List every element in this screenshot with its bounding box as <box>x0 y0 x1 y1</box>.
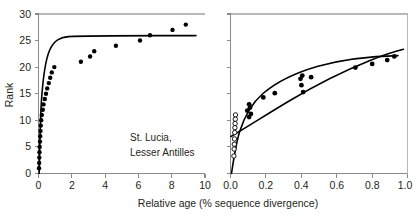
data-point-open <box>233 117 237 121</box>
data-point <box>41 108 45 112</box>
x-ticklabel-0: 0 <box>36 179 42 191</box>
x-ticklabel-4: 4 <box>102 179 108 191</box>
y-ticklabel-30: 30 <box>19 8 31 20</box>
data-point <box>300 73 305 78</box>
right-panel: 0.0 0.2 0.4 0.6 0.8 1.0 <box>223 14 412 191</box>
data-point <box>353 65 358 70</box>
right-panel-y-ticks <box>227 14 231 174</box>
data-point <box>37 150 41 154</box>
data-point <box>43 97 47 101</box>
y-ticklabel-25: 25 <box>19 34 31 46</box>
data-point-open <box>233 126 237 130</box>
right-panel-linear-curve <box>231 49 404 136</box>
data-point <box>41 102 45 106</box>
data-point <box>40 113 44 117</box>
x-ticklabel-0_2: 0.2 <box>259 179 274 191</box>
data-point <box>385 58 390 63</box>
annotation-line-2: Lesser Antilles <box>130 147 194 158</box>
two-panel-scatter-figure: 0 5 10 15 20 25 30 0 2 4 6 8 <box>0 0 418 216</box>
x-ticklabel-0_4: 0.4 <box>294 179 309 191</box>
data-point <box>309 75 314 80</box>
y-axis-title: Rank <box>3 82 15 107</box>
data-point <box>79 60 83 64</box>
data-point <box>38 145 42 149</box>
data-point <box>52 65 56 69</box>
left-panel: 0 5 10 15 20 25 30 0 2 4 6 8 <box>3 8 211 191</box>
data-point <box>392 54 397 59</box>
data-point <box>261 95 266 100</box>
data-point <box>248 105 253 110</box>
left-panel-y-ticks <box>35 14 39 174</box>
data-point <box>148 33 152 37</box>
data-point <box>39 118 43 122</box>
data-point <box>39 123 43 127</box>
data-point <box>301 90 306 95</box>
data-point <box>88 54 92 58</box>
y-ticklabel-15: 15 <box>19 87 31 99</box>
x-ticklabel-0_6: 0.6 <box>330 179 345 191</box>
x-ticklabel-0_0: 0.0 <box>223 179 238 191</box>
data-point <box>38 139 42 143</box>
data-point <box>272 91 277 96</box>
left-panel-y-ticklabels: 0 5 10 15 20 25 30 <box>19 8 31 179</box>
annotation-line-1: St. Lucia, <box>130 132 172 143</box>
data-point <box>299 83 304 88</box>
left-panel-annotation: St. Lucia, Lesser Antilles <box>130 132 194 158</box>
data-point-open <box>233 130 237 134</box>
data-point <box>114 44 118 48</box>
x-ticklabel-1_0: 1.0 <box>398 179 413 191</box>
y-ticklabel-0: 0 <box>25 167 31 179</box>
data-point-open <box>232 154 236 158</box>
data-point <box>38 129 42 133</box>
data-point <box>92 49 96 53</box>
data-point <box>44 92 48 96</box>
data-point-open <box>232 142 236 146</box>
data-point <box>138 38 142 42</box>
data-point <box>38 134 42 138</box>
y-ticklabel-5: 5 <box>25 140 31 152</box>
data-point <box>170 28 174 32</box>
right-panel-filled-points <box>245 54 397 120</box>
data-point <box>184 22 188 26</box>
left-panel-x-ticklabels: 0 2 4 6 8 10 <box>36 179 211 191</box>
x-ticklabel-10: 10 <box>199 179 211 191</box>
data-point <box>45 86 49 90</box>
right-panel-x-ticklabels: 0.0 0.2 0.4 0.6 0.8 1.0 <box>223 179 412 191</box>
right-panel-saturating-curve <box>232 56 399 174</box>
right-panel-x-ticks <box>231 174 408 178</box>
data-point <box>37 155 41 159</box>
data-point-open <box>232 137 236 141</box>
left-panel-x-ticks <box>39 174 206 178</box>
data-point-open <box>233 121 237 125</box>
data-point-open <box>232 147 236 151</box>
x-ticklabel-8: 8 <box>169 179 175 191</box>
x-ticklabel-6: 6 <box>135 179 141 191</box>
data-point-open <box>233 113 237 117</box>
data-point <box>249 112 254 117</box>
x-ticklabel-2: 2 <box>69 179 75 191</box>
y-ticklabel-20: 20 <box>19 61 31 73</box>
data-point <box>47 81 51 85</box>
x-axis-title: Relative age (% sequence divergence) <box>138 197 318 209</box>
figure-container: 0 5 10 15 20 25 30 0 2 4 6 8 <box>0 0 418 216</box>
y-ticklabel-10: 10 <box>19 114 31 126</box>
data-point <box>50 70 54 74</box>
data-point <box>48 76 52 80</box>
data-point <box>37 166 41 170</box>
x-ticklabel-0_8: 0.8 <box>365 179 380 191</box>
data-point <box>37 161 41 165</box>
data-point <box>370 62 375 67</box>
